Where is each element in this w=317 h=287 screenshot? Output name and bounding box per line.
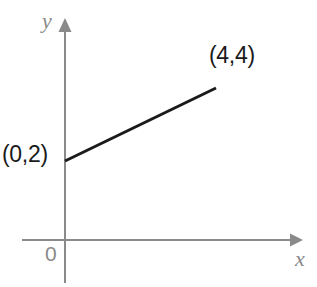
- point-label-start: (0,2): [2, 143, 48, 166]
- data-line-segment: [65, 88, 216, 161]
- x-axis-label: x: [295, 248, 305, 270]
- point-label-end: (4,4): [209, 44, 255, 67]
- origin-label: 0: [45, 243, 57, 264]
- x-axis-arrowhead: [290, 234, 303, 247]
- y-axis-label: y: [42, 10, 52, 32]
- y-axis-arrowhead: [59, 18, 72, 32]
- coordinate-plane-figure: (0,2) (4,4) y x 0: [0, 0, 317, 287]
